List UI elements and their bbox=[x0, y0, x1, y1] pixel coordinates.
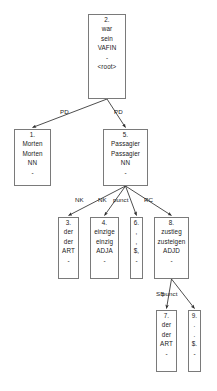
node-morph: - bbox=[135, 256, 137, 265]
node-morph: - bbox=[170, 256, 172, 265]
node-index: 3. bbox=[66, 219, 71, 227]
node-lemma: . bbox=[194, 330, 196, 339]
tree-node-7[interactable]: 7.derderART- bbox=[156, 310, 177, 372]
edge-label-pd: PD bbox=[114, 108, 123, 115]
node-index: 2. bbox=[104, 16, 109, 24]
node-index: 4. bbox=[102, 219, 107, 227]
tree-node-2[interactable]: 2.warseinVAFIN-<root> bbox=[88, 14, 126, 99]
node-form: war bbox=[102, 24, 112, 33]
node-form: der bbox=[64, 227, 73, 236]
node-index: 7. bbox=[164, 312, 169, 320]
node-morph: - bbox=[31, 168, 33, 177]
edge-label-punct: punct bbox=[162, 290, 178, 297]
node-pos: $. bbox=[192, 339, 197, 348]
node-pos: NN bbox=[121, 158, 130, 167]
node-lemma: , bbox=[136, 237, 138, 246]
tree-node-3[interactable]: 3.derderART- bbox=[58, 217, 79, 279]
node-form: Morten bbox=[22, 139, 42, 148]
node-lemma: einzig bbox=[96, 237, 113, 246]
edge-label-punct: punct bbox=[113, 196, 129, 203]
node-lemma: der bbox=[64, 237, 73, 246]
node-morph: - bbox=[67, 256, 69, 265]
node-index: 5. bbox=[123, 131, 128, 139]
edge-label-nk: NK bbox=[98, 196, 107, 203]
tree-node-6[interactable]: 6.,,$,- bbox=[130, 217, 143, 279]
node-pos: $, bbox=[134, 246, 139, 255]
node-lemma: Morten bbox=[22, 149, 42, 158]
node-pos: NN bbox=[28, 158, 37, 167]
node-pos: VAFIN bbox=[98, 43, 117, 52]
node-lemma: der bbox=[162, 330, 171, 339]
node-lemma: zusteigen bbox=[158, 237, 186, 246]
tree-edge-pd bbox=[33, 99, 108, 128]
node-lemma: Passagier bbox=[111, 149, 140, 158]
tree-node-1[interactable]: 1.MortenMortenNN- bbox=[14, 129, 51, 186]
node-index: 8. bbox=[169, 219, 174, 227]
node-index: 1. bbox=[30, 131, 35, 139]
node-morph: - bbox=[193, 349, 195, 358]
edge-label-nk: NK bbox=[75, 196, 84, 203]
node-pos: ART bbox=[62, 246, 75, 255]
node-form: zustieg bbox=[161, 227, 182, 236]
tree-node-8[interactable]: 8.zustiegzusteigenADJD- bbox=[154, 217, 189, 279]
tree-node-9[interactable]: 9...$.- bbox=[188, 310, 201, 372]
node-form: der bbox=[162, 320, 171, 329]
dependency-tree-canvas: 2.warseinVAFIN-<root>1.MortenMortenNN-5.… bbox=[0, 0, 217, 391]
node-lemma: sein bbox=[101, 34, 113, 43]
node-form: . bbox=[194, 320, 196, 329]
node-pos: ADJD bbox=[163, 246, 180, 255]
node-form: Passagier bbox=[111, 139, 140, 148]
edge-label-pd: PD bbox=[60, 108, 69, 115]
node-pos: ADJA bbox=[96, 246, 113, 255]
node-morph: - bbox=[103, 256, 105, 265]
tree-node-4[interactable]: 4.einzigeeinzigADJA- bbox=[90, 217, 119, 279]
node-index: 6. bbox=[134, 219, 139, 227]
edge-label-rc: RC bbox=[144, 196, 153, 203]
node-pos: ART bbox=[160, 339, 173, 348]
tree-node-5[interactable]: 5.PassagierPassagierNN- bbox=[103, 129, 148, 186]
node-morph: - bbox=[124, 168, 126, 177]
node-form: einzige bbox=[94, 227, 115, 236]
node-morph: - bbox=[106, 53, 108, 62]
node-morph: - bbox=[165, 349, 167, 358]
node-extra: <root> bbox=[98, 62, 117, 71]
node-form: , bbox=[136, 227, 138, 236]
node-index: 9. bbox=[192, 312, 197, 320]
